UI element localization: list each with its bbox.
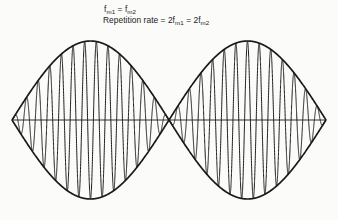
beat-waveform-figure: fm1 = fm2 Repetition rate = 2fm1 = 2fm2 — [0, 0, 338, 220]
waveform-plot — [0, 0, 338, 220]
